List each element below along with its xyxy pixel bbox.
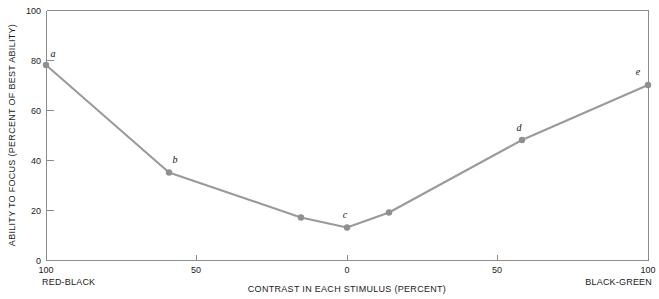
data-point-unlabeled-2 [386,209,392,215]
data-point-e [645,82,651,88]
y-axis-title: ABILITY TO FOCUS (PERCENT OF BEST ABILIT… [7,24,17,246]
x-axis-title: CONTRAST IN EACH STIMULUS (PERCENT) [248,284,446,294]
line-chart: 0 20 40 60 80 100 ABILITY TO FOCUS (PERC… [0,0,659,299]
data-point-labels: a b c d e [51,48,641,220]
x-axis-tick-labels: 100 50 0 50 100 [38,265,655,275]
x-tick-label: 100 [38,265,53,275]
data-point-unlabeled-1 [298,214,304,220]
data-points [43,62,651,231]
data-point-a [43,62,49,68]
y-tick-label: 80 [31,56,41,66]
y-tick-label: 0 [36,256,41,266]
y-tick-label: 60 [31,106,41,116]
y-tick-label: 40 [31,156,41,166]
y-tick-label: 100 [26,6,41,16]
x-tick-label: 100 [640,265,655,275]
data-point-b [166,169,172,175]
data-point-c [344,224,350,230]
data-point-label-e: e [636,66,641,77]
data-point-label-b: b [173,154,178,165]
x-tick-label: 50 [492,265,502,275]
x-axis-ticks [47,255,649,261]
x-tick-label: 50 [191,265,201,275]
data-point-label-d: d [517,122,523,133]
y-axis-tick-labels: 0 20 40 60 80 100 [26,6,41,266]
data-point-label-c: c [343,209,348,220]
x-tick-label: 0 [344,265,349,275]
data-point-label-a: a [51,48,56,59]
plot-frame [47,11,649,261]
x-axis-left-category-label: RED-BLACK [42,277,95,287]
data-point-d [519,137,525,143]
x-axis-right-category-label: BLACK-GREEN [585,277,652,287]
y-tick-label: 20 [31,206,41,216]
data-series-line [46,65,648,228]
chart-figure: 0 20 40 60 80 100 ABILITY TO FOCUS (PERC… [0,0,659,299]
